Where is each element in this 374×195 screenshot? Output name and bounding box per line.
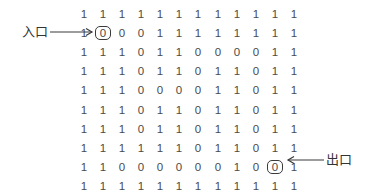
arrows-layer [0,0,374,195]
entrance-arrow [50,29,92,36]
entrance-label: 入口 [22,25,48,39]
exit-arrow [288,157,324,164]
exit-label: 出口 [326,153,352,167]
